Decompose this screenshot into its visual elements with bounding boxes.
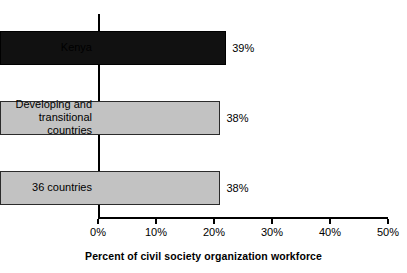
x-axis-tick-mark [97, 219, 99, 224]
x-axis-tick-mark [155, 219, 157, 224]
bar-value-label: 38% [226, 183, 248, 194]
x-axis-tick-mark [387, 219, 389, 224]
category-label-kenya: Kenya [0, 41, 92, 54]
x-axis-tick-mark [329, 219, 331, 224]
category-label-36-countries: 36 countries [0, 181, 92, 194]
x-axis-tick-label: 10% [145, 227, 167, 238]
x-axis-tick-label: 30% [261, 227, 283, 238]
bar-value-label: 39% [232, 43, 254, 54]
bar-value-label: 38% [226, 113, 248, 124]
x-axis-tick-label: 20% [203, 227, 225, 238]
x-axis-title: Percent of civil society organization wo… [0, 250, 407, 262]
bar-chart: 39% Kenya 38% Developing and transitiona… [0, 0, 407, 273]
x-axis-tick-label: 50% [377, 227, 399, 238]
x-axis-tick-mark [213, 219, 215, 224]
category-label-developing-transitional-countries: Developing and transitional countries [0, 98, 92, 137]
x-axis-tick-label: 0% [90, 227, 106, 238]
x-axis-line [98, 217, 388, 219]
x-axis-tick-mark [271, 219, 273, 224]
x-axis-tick-label: 40% [319, 227, 341, 238]
